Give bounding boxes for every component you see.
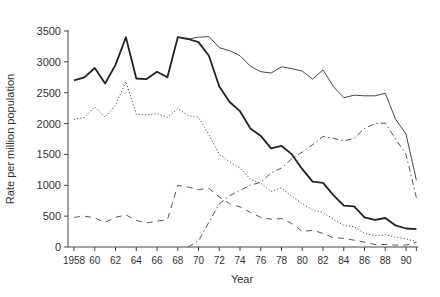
series-lines	[74, 37, 416, 247]
x-tick-label: 74	[234, 255, 246, 266]
y-tick-label: 1000	[37, 179, 61, 191]
y-tick-label: 3000	[37, 56, 61, 68]
x-tick-label: 64	[131, 255, 143, 266]
series-thick-solid	[74, 37, 416, 229]
x-tick-label: 68	[172, 255, 184, 266]
series-thin-solid	[178, 37, 417, 181]
series-dashed	[74, 185, 416, 245]
x-tick-label: 1958	[63, 255, 86, 266]
line-chart: 0500100015002000250030003500195860626466…	[0, 0, 440, 297]
y-axis-label: Rate per million population	[4, 74, 16, 204]
x-tick-label: 76	[255, 255, 267, 266]
x-tick-label: 78	[276, 255, 288, 266]
y-tick-label: 500	[43, 210, 61, 222]
x-tick-label: 86	[359, 255, 371, 266]
x-tick-label: 72	[214, 255, 226, 266]
x-tick-label: 90	[400, 255, 412, 266]
series-dash-dot	[188, 123, 416, 247]
x-axis-label: Year	[231, 273, 254, 285]
y-tick-label: 1500	[37, 148, 61, 160]
x-tick-label: 88	[380, 255, 392, 266]
axes: 0500100015002000250030003500195860626466…	[37, 25, 419, 266]
x-tick-label: 60	[89, 255, 101, 266]
y-tick-label: 2000	[37, 118, 61, 130]
x-tick-label: 80	[297, 255, 309, 266]
y-tick-label: 2500	[37, 87, 61, 99]
y-tick-label: 3500	[37, 25, 61, 37]
x-tick-label: 82	[317, 255, 329, 266]
x-tick-label: 70	[193, 255, 205, 266]
y-tick-label: 0	[55, 241, 61, 253]
x-tick-label: 84	[338, 255, 350, 266]
x-tick-label: 66	[151, 255, 163, 266]
x-tick-label: 62	[110, 255, 122, 266]
